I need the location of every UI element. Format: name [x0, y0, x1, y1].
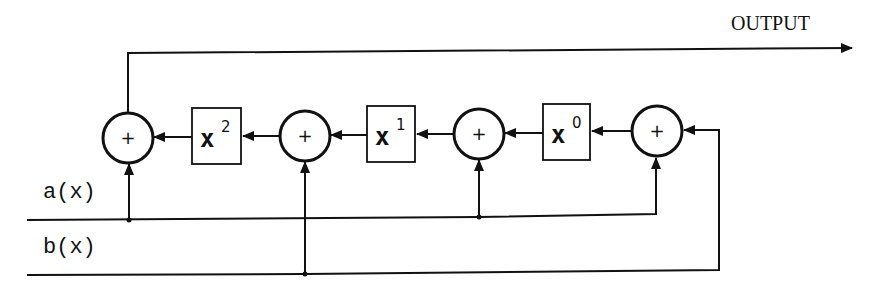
svg-text:0: 0: [572, 114, 582, 132]
svg-text:2: 2: [221, 118, 231, 136]
junction-dot: [303, 272, 308, 277]
output-label: OUTPUT: [731, 12, 810, 34]
adder-1: +: [103, 113, 153, 163]
junction-dot: [127, 218, 132, 223]
adder-multiplier-diagram: OUTPUT a(x) b(x) + + + +: [0, 0, 878, 297]
adder-3: +: [454, 109, 504, 159]
multiplier-x2: x 2: [192, 108, 241, 164]
a-input-bus: [27, 158, 656, 223]
plus-icon: +: [120, 127, 135, 148]
svg-text:1: 1: [396, 116, 406, 134]
input-label-b: b(x): [43, 235, 96, 260]
adder-4: +: [632, 106, 682, 156]
plus-icon: +: [649, 120, 664, 141]
multiplier-x1: x 1: [367, 106, 415, 162]
junction-dot: [477, 215, 482, 220]
plus-icon: +: [471, 123, 486, 144]
input-label-a: a(x): [43, 180, 96, 205]
svg-text:x: x: [200, 125, 214, 153]
svg-text:x: x: [551, 121, 565, 149]
plus-icon: +: [297, 125, 312, 146]
output-wire: [128, 48, 852, 113]
svg-text:x: x: [375, 123, 389, 151]
multiplier-x0: x 0: [543, 104, 590, 160]
adder-2: +: [280, 111, 330, 161]
